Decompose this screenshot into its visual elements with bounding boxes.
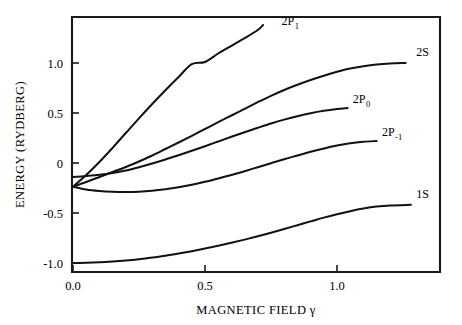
data-curves [73, 25, 411, 263]
curve-label-1s: 1S [416, 187, 429, 201]
tick-marks [72, 63, 337, 272]
curve-label-subscript: 1 [295, 21, 299, 31]
plot-frame [72, 17, 440, 272]
curve-2p-1 [73, 141, 377, 192]
curve-label-text: 2P [282, 14, 295, 28]
x-axis-title: MAGNETIC FIELD γ [196, 303, 316, 317]
curve-label-text: 2S [416, 45, 429, 59]
curve-label-subscript: -1 [395, 132, 402, 142]
curve-label-2s: 2S [416, 45, 429, 59]
x-tick-label: 0.0 [65, 279, 81, 293]
y-tick-labels: -1.0-0.500.51.0 [43, 57, 63, 271]
y-tick-label: -1.0 [43, 257, 63, 271]
curve-1s [73, 205, 411, 263]
curve-2p0 [73, 108, 348, 177]
y-tick-label: 1.0 [47, 57, 63, 71]
curve-label-text: 2P [382, 125, 395, 139]
y-tick-label: -0.5 [43, 207, 63, 221]
y-tick-label: 0 [57, 157, 63, 171]
figure-container: 0.00.51.0 -1.0-0.500.51.0 2P12S2P02P-11S… [0, 0, 462, 325]
y-tick-label: 0.5 [47, 107, 63, 121]
x-tick-labels: 0.00.51.0 [65, 279, 345, 293]
curve-labels: 2P12S2P02P-11S [282, 14, 429, 201]
x-tick-label: 1.0 [329, 279, 345, 293]
x-tick-label: 0.5 [197, 279, 213, 293]
y-axis-title: ENERGY (RYDBERG) [13, 81, 27, 208]
curve-label-2p0: 2P0 [353, 92, 370, 109]
curve-2p1 [73, 25, 263, 187]
curve-2s [73, 63, 406, 187]
energy-vs-magnetic-field-chart: 0.00.51.0 -1.0-0.500.51.0 2P12S2P02P-11S… [0, 0, 462, 325]
axis-frame [72, 17, 440, 272]
curve-label-subscript: 0 [366, 99, 370, 109]
curve-label-text: 2P [353, 92, 366, 106]
curve-label-text: 1S [416, 187, 429, 201]
curve-label-2p-1: 2P-1 [382, 125, 402, 142]
